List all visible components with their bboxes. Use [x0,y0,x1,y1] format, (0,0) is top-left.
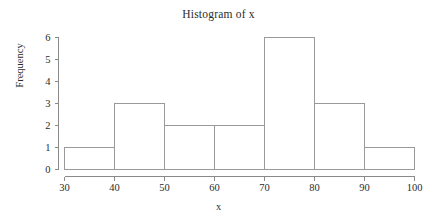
y-axis-tick-label: 0 [45,164,50,175]
y-axis-tick-label: 1 [45,142,50,153]
axes-group [59,38,415,177]
y-axis-tick-label: 3 [45,98,50,109]
y-axis-tick-label: 4 [45,76,51,87]
x-axis-tick-label: 60 [209,182,220,193]
x-axis-tick-label: 50 [159,182,170,193]
tick-labels-group: 012345630405060708090100 [45,32,422,192]
y-axis-tick-label: 2 [45,120,50,131]
histogram-bar [315,104,365,170]
bars-group [65,38,415,170]
y-axis-tick-label: 5 [45,54,50,65]
histogram-bar [115,104,165,170]
plot-canvas: 012345630405060708090100 [0,0,437,224]
x-axis-tick-label: 100 [407,182,423,193]
histogram-bar [365,148,415,170]
x-axis-tick-label: 30 [59,182,70,193]
x-axis-label: x [0,201,437,212]
x-axis-tick-label: 80 [309,182,320,193]
y-axis-label: Frequency [14,21,25,111]
histogram-bar [65,148,115,170]
x-axis-tick-label: 70 [259,182,270,193]
histogram-bar [265,38,315,170]
histogram-bar [215,126,265,170]
x-axis-tick-label: 40 [109,182,120,193]
histogram-plot: Histogram of x 012345630405060708090100 … [0,0,437,224]
histogram-bar [165,126,215,170]
ticks-group [55,38,415,181]
x-axis-tick-label: 90 [359,182,370,193]
y-axis-tick-label: 6 [45,32,50,43]
